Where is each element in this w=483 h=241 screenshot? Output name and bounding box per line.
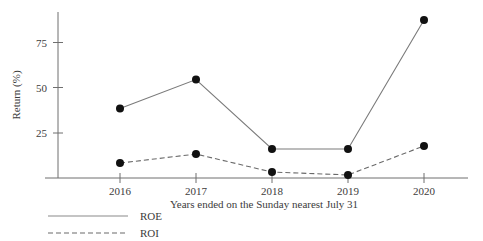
legend-label-roe: ROE	[140, 210, 162, 222]
x-tick-label-2020: 2020	[413, 185, 436, 197]
x-tick-label-2016: 2016	[109, 185, 132, 197]
data-point	[344, 145, 352, 153]
data-point	[344, 171, 352, 179]
series-line-roe	[120, 20, 424, 149]
x-tick-label-2017: 2017	[185, 185, 208, 197]
data-point	[268, 168, 276, 176]
return-line-chart: 25 50 75 2016 2017 2018 2019 2020 Return…	[0, 0, 483, 241]
legend-label-roi: ROI	[140, 227, 159, 239]
y-tick-label-50: 50	[36, 82, 48, 94]
x-tick-label-2018: 2018	[261, 185, 284, 197]
data-point	[192, 150, 200, 158]
series-markers-roe	[116, 16, 428, 153]
chart-container: 25 50 75 2016 2017 2018 2019 2020 Return…	[0, 0, 483, 241]
y-axis-title: Return (%)	[10, 70, 23, 120]
chart-legend: ROE ROI	[48, 210, 162, 239]
data-point	[420, 142, 428, 150]
y-tick-label-25: 25	[36, 127, 48, 139]
x-axis-title: Years ended on the Sunday nearest July 3…	[170, 198, 358, 210]
data-point	[192, 76, 200, 84]
data-point	[420, 16, 428, 24]
data-point	[116, 105, 124, 113]
data-point	[268, 145, 276, 153]
data-point	[116, 159, 124, 167]
x-tick-label-2019: 2019	[337, 185, 360, 197]
y-tick-label-75: 75	[36, 37, 48, 49]
